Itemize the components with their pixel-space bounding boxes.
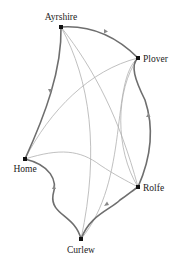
arrow-icon [104, 29, 108, 34]
node-curlew[interactable] [79, 237, 83, 241]
arrow-icon [52, 185, 56, 189]
edge-plover-curlew [81, 58, 138, 239]
node-rolfe[interactable] [136, 185, 140, 189]
arrow-icon [146, 113, 151, 117]
node-home[interactable] [23, 157, 27, 161]
edge-ayrshire-curlew [61, 27, 91, 239]
arrow-icon [104, 202, 109, 207]
thin-edges [25, 27, 138, 239]
edge-home-rolfe [25, 152, 138, 187]
node-plover[interactable] [136, 56, 140, 60]
edge-curlew-rolfe [81, 187, 138, 239]
label-rolfe: Rolfe [143, 183, 164, 193]
node-ayrshire[interactable] [59, 25, 63, 29]
thick-edges [25, 27, 150, 239]
label-plover: Plover [143, 54, 169, 64]
label-ayrshire: Ayrshire [45, 12, 77, 22]
label-home: Home [13, 164, 36, 174]
edge-rolfe-plover [134, 58, 150, 187]
network-diagram: Ayrshire Plover Home Rolfe Curlew [0, 0, 179, 263]
label-curlew: Curlew [67, 245, 95, 255]
edge-ayrshire-home [25, 27, 61, 159]
